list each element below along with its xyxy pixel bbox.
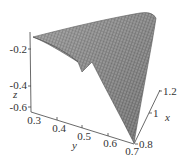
surface-plot: -0.2 -0.4 -0.6 z 0.3 0.4 0.5 0.6 0.7 y 0… — [0, 0, 187, 158]
z-tick-label: -0.2 — [10, 43, 27, 55]
y-tick-label: 0.3 — [27, 114, 41, 126]
x-tick-label: 1.2 — [163, 85, 177, 97]
z-axis-label: z — [12, 88, 18, 100]
z-axis: -0.2 -0.4 -0.6 z — [10, 32, 31, 113]
x-tick-label: 0.8 — [139, 138, 153, 150]
y-tick-label: 0.4 — [52, 122, 66, 134]
x-axis-label: x — [164, 111, 170, 123]
x-tick-label: 1 — [153, 107, 159, 119]
y-axis-label: y — [71, 139, 77, 151]
y-tick-label: 0.7 — [125, 145, 139, 157]
z-tick-label: -0.6 — [10, 101, 28, 113]
y-tick-label: 0.6 — [103, 137, 117, 149]
y-tick-label: 0.5 — [77, 130, 91, 142]
